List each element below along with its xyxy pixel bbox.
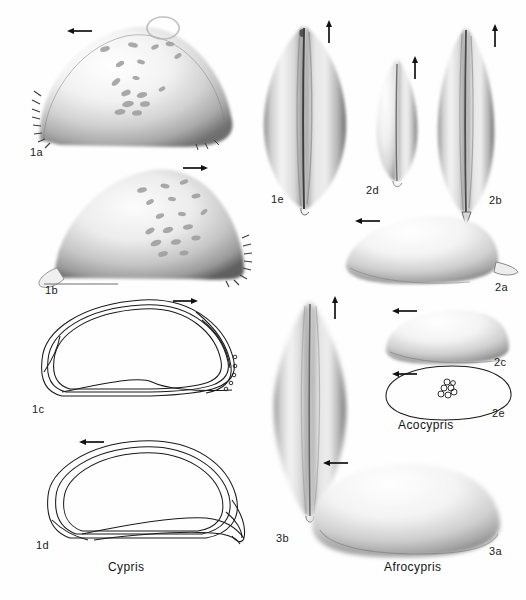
figure-label-2a: 2a [495,281,508,293]
figure-label-1b: 1b [45,284,58,296]
figure-1d-artwork [48,441,245,544]
arrow-up-3b [330,296,340,320]
figure-2b-artwork [438,28,495,226]
arrow-right-1c [172,296,198,306]
figure-label-1c: 1c [32,403,44,415]
arrow-up-1e [324,20,334,44]
figure-label-2e: 2e [492,407,505,419]
figure-1b-artwork [39,170,252,288]
figure-label-2d: 2d [366,184,379,196]
illustration-plate: 1a 1b 1c 1d 1e 2d 2b 2a 2c 2e 3b 3a Cypr… [0,0,526,600]
figure-label-3a: 3a [489,545,502,557]
arrow-left-1a [67,26,93,36]
genus-label-acocypris: Acocypris [398,418,454,432]
arrow-up-2d [410,56,420,80]
figure-2a-artwork [346,216,518,284]
figure-label-1a: 1a [30,146,43,158]
arrow-left-3a [323,458,349,468]
genus-label-afrocypris: Afrocypris [384,560,441,574]
figure-1c-artwork [42,300,237,396]
muscle-scar-rosette [438,379,457,398]
arrow-left-2e [392,369,418,379]
genus-label-cypris: Cypris [108,560,144,574]
figure-label-1d: 1d [36,539,49,551]
figure-2c-artwork [386,310,509,364]
figure-label-2b: 2b [489,194,502,206]
figure-label-3b: 3b [276,532,289,544]
figure-label-2c: 2c [494,356,506,368]
arrow-left-1d [79,437,105,447]
figure-3a-artwork [312,464,500,557]
arrow-left-2c [392,306,418,316]
arrow-up-2b [490,24,500,48]
figure-1e-artwork [264,26,346,215]
arrow-right-1b [182,163,208,173]
plate-artwork [0,0,526,600]
arrow-left-2a [355,216,381,226]
figure-1a-artwork [32,17,232,150]
figure-label-1e: 1e [271,193,284,205]
